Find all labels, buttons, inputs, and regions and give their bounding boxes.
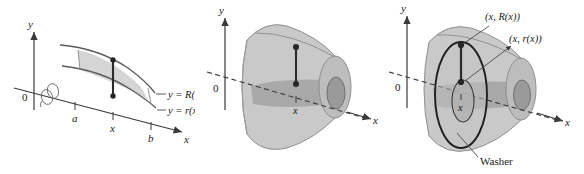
tick-label-x: x (109, 122, 115, 134)
point-label-outer: (x, R(x)) (485, 11, 520, 23)
washer-inner-hole (452, 80, 474, 122)
washer-callout-label: Washer (480, 155, 513, 167)
curve-label-r: y = r(x) (167, 105, 195, 117)
slice-bottom-dot (110, 93, 115, 98)
y-axis-label: y (400, 2, 406, 14)
outer-radius-dot (293, 44, 299, 50)
x-axis-line (347, 112, 371, 119)
inner-radius-dot (293, 81, 299, 87)
x-axis-line (14, 88, 182, 132)
washer-cross-section-svg: y 0 x x (385, 0, 584, 174)
washer-method-figure: y x 0 (0, 0, 584, 174)
origin-label: 0 (22, 91, 28, 103)
solid-of-revolution-panel: y 0 x x (195, 0, 385, 174)
tick-label-b: b (148, 132, 154, 144)
x-axis-label: x (183, 133, 189, 145)
tick-label-x: x (292, 105, 298, 116)
inner-radius-dot (458, 79, 464, 85)
outer-radius-dot (458, 42, 464, 48)
solid-of-revolution-svg: y 0 x x (195, 0, 385, 174)
slice-top-dot (110, 57, 115, 62)
y-axis-label: y (218, 4, 224, 16)
origin-label: 0 (213, 82, 219, 94)
plane-region-svg: y x 0 (0, 0, 195, 174)
x-axis-label: x (564, 116, 570, 128)
x-axis-line (537, 113, 563, 121)
origin-label: 0 (395, 81, 401, 93)
point-label-inner: (x, r(x)) (509, 33, 542, 45)
right-end-hole (514, 80, 531, 110)
washer-cross-section-panel: y 0 x x (385, 0, 584, 174)
y-axis-label: y (27, 18, 33, 30)
x-axis-label: x (372, 114, 378, 126)
right-end-hole (327, 77, 345, 109)
tick-label-a: a (72, 112, 78, 124)
rotation-arrow-icon (40, 82, 60, 107)
plane-region-panel: y x 0 (0, 0, 195, 174)
tick-label-x: x (457, 102, 463, 113)
curve-label-R: y = R(x) (167, 89, 195, 101)
